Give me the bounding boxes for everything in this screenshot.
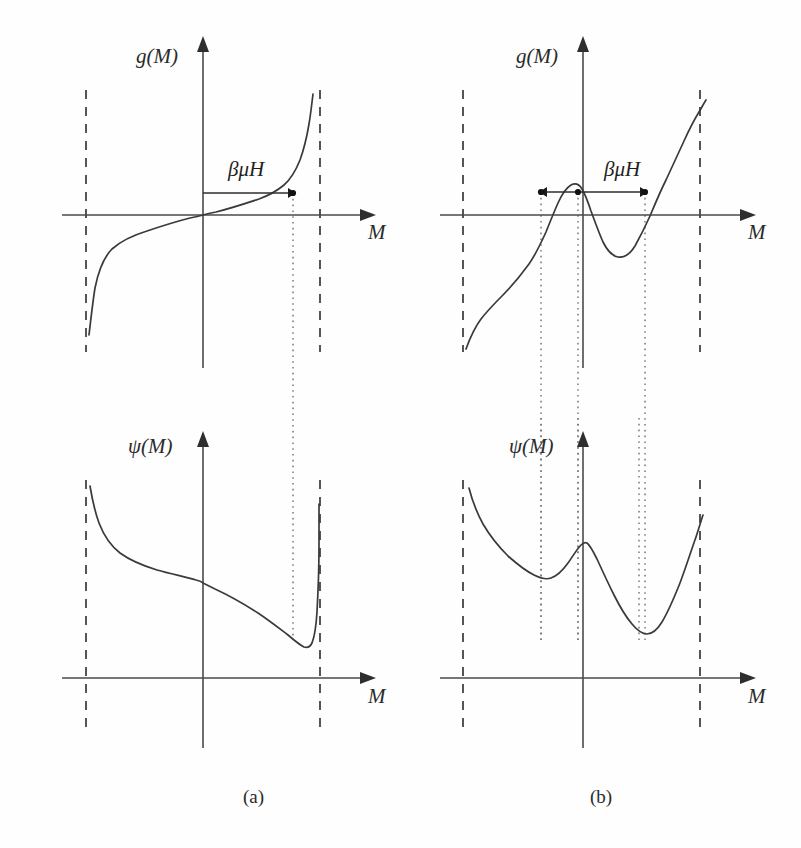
panel-b-top (440, 36, 756, 640)
caption-panel-a: (a) (243, 787, 264, 806)
curve-psi-b (469, 488, 703, 634)
y-axis-label-b-bottom: ψ(M) (509, 436, 554, 457)
y-axis-arrowhead-a-bottom (197, 431, 209, 447)
solution-dot-right-b (642, 189, 648, 195)
x-axis-label-b-bottom: M (748, 686, 766, 707)
x-axis-label-a-top: M (368, 222, 386, 243)
y-axis-arrowhead-a-top (197, 36, 209, 52)
figure-canvas (0, 0, 801, 848)
x-axis-arrowhead-a-bottom (360, 672, 376, 684)
y-axis-label-a-bottom: ψ(M) (128, 436, 173, 457)
curve-g-b (466, 100, 706, 349)
caption-panel-b: (b) (590, 787, 612, 806)
y-axis-arrowhead-b-top (577, 36, 589, 52)
y-axis-label-a-top: g(M) (136, 46, 178, 67)
panel-b-bottom (440, 418, 756, 748)
solution-dot-a (290, 190, 296, 196)
panel-a-top (62, 36, 376, 640)
curve-psi-a (90, 486, 319, 647)
x-axis-arrowhead-b-bottom (740, 672, 756, 684)
figure-root: g(M) M βμH g(M) M βμH ψ(M) M ψ(M) M (a) … (0, 0, 801, 848)
y-axis-arrowhead-b-bottom (577, 431, 589, 447)
x-axis-label-a-bottom: M (368, 686, 386, 707)
measure-label-b-top: βμH (604, 159, 640, 180)
solution-dot-left-b (538, 189, 544, 195)
y-axis-label-b-top: g(M) (516, 46, 558, 67)
x-axis-label-b-top: M (748, 222, 766, 243)
solution-dot-center-b (575, 189, 581, 195)
panel-a-bottom (62, 431, 376, 748)
measure-label-a-top: βμH (228, 159, 264, 180)
